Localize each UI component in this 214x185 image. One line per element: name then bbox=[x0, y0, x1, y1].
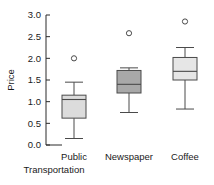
y-tick-label: 0.5 bbox=[28, 118, 41, 129]
y-tick-label: 0.0 bbox=[28, 139, 41, 150]
x-category-label: Coffee bbox=[171, 151, 199, 162]
x-category-label: Newspaper bbox=[105, 151, 153, 162]
outlier-point bbox=[71, 56, 76, 61]
outlier-point bbox=[126, 31, 131, 36]
y-tick-label: 2.0 bbox=[28, 53, 41, 64]
boxplot-chart: 0.00.51.01.52.02.53.0PricePublicTranspor… bbox=[0, 0, 214, 185]
x-category-label: Public bbox=[61, 151, 87, 162]
box-iqr bbox=[173, 57, 197, 80]
y-tick-label: 1.0 bbox=[28, 96, 41, 107]
box-plot-group bbox=[173, 19, 197, 109]
chart-canvas: 0.00.51.01.52.02.53.0PricePublicTranspor… bbox=[0, 0, 214, 185]
y-tick-label: 1.5 bbox=[28, 74, 41, 85]
box-iqr bbox=[117, 70, 141, 93]
outlier-point bbox=[182, 19, 187, 24]
box-iqr bbox=[62, 95, 86, 118]
y-tick-label: 2.5 bbox=[28, 31, 41, 42]
y-axis-title: Price bbox=[5, 69, 16, 91]
x-category-label-line2: Transportation bbox=[24, 164, 85, 175]
box-plot-group bbox=[62, 56, 86, 139]
y-tick-label: 3.0 bbox=[28, 9, 41, 20]
box-plot-group bbox=[117, 31, 141, 113]
